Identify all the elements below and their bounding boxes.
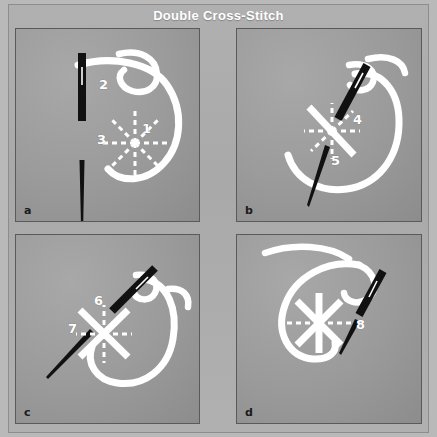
guide-center-a [132, 140, 138, 146]
panel-d-illustration: 8 [237, 235, 422, 424]
panel-b-illustration: 4 5 [237, 29, 422, 222]
figure-double-cross-stitch: Double Cross-Stitch [0, 0, 437, 437]
panel-b: 4 5 b [236, 28, 422, 222]
panel-c-illustration: 6 7 [16, 235, 200, 424]
step-number-2: 2 [99, 77, 108, 92]
needle-point-a [80, 160, 85, 222]
panel-letter-a: a [24, 204, 31, 217]
step-number-6: 6 [94, 293, 103, 308]
step-number-3: 3 [97, 132, 106, 147]
figure-title-bar: Double Cross-Stitch [8, 4, 429, 26]
step-number-8: 8 [356, 317, 365, 332]
panel-letter-b: b [245, 204, 253, 217]
page-title: Double Cross-Stitch [153, 8, 284, 23]
thread-tail-d [265, 247, 349, 259]
step-number-7: 7 [68, 321, 77, 336]
needle-point-b [307, 145, 330, 207]
step-number-1: 1 [142, 121, 151, 136]
panel-letter-d: d [245, 406, 253, 419]
panel-letter-c: c [24, 406, 31, 419]
panel-a: 2 3 1 a [15, 28, 200, 222]
step-number-4: 4 [353, 112, 362, 127]
step-number-5: 5 [331, 153, 340, 168]
panel-a-illustration: 2 3 1 [16, 29, 200, 222]
panel-c: 6 7 c [15, 234, 200, 424]
panel-d: 8 d [236, 234, 422, 424]
thread-loop-a [78, 61, 179, 179]
